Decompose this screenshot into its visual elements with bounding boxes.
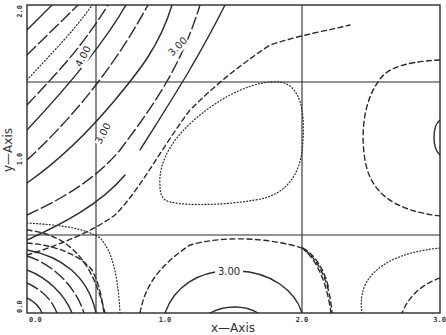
contour-line xyxy=(160,82,304,205)
x-tick-label: 2.0 xyxy=(296,316,309,324)
contour-label-text: 3.00 xyxy=(218,266,240,277)
contour-line xyxy=(27,298,42,313)
y-axis-label: y—Axis xyxy=(1,128,15,172)
x-tick-label: 3.0 xyxy=(433,316,446,324)
contour-line xyxy=(27,283,57,313)
contour-line xyxy=(434,120,440,155)
y-tick-label: 1.0 xyxy=(16,153,24,166)
contour-label-3-bottom: 3.00 xyxy=(215,266,243,278)
contour-line xyxy=(27,5,126,130)
contour-line xyxy=(238,271,302,313)
x-tick-label: 1.0 xyxy=(159,316,172,324)
contour-line xyxy=(361,248,440,313)
contour-line xyxy=(27,5,78,55)
contour-line xyxy=(363,60,440,216)
x-tick-label: 0.0 xyxy=(29,316,42,324)
contour-line xyxy=(27,5,172,183)
y-tick-label: 0.0 xyxy=(16,300,24,313)
contour-chart: 4.00 3.00 3.00 3.00 0.0 1.0 2.0 3.0 0.0 … xyxy=(0,0,446,335)
contour-line xyxy=(27,223,120,313)
contour-line xyxy=(27,5,200,215)
contour-line xyxy=(210,307,258,313)
contour-label-3-upper: 3.00 xyxy=(165,34,190,59)
contour-line xyxy=(27,5,52,30)
contour-line xyxy=(302,248,331,313)
contour-line xyxy=(402,278,440,313)
y-tick-label: 2.0 xyxy=(16,5,24,18)
contour-line xyxy=(27,270,72,313)
x-axis-label: x—Axis xyxy=(211,321,255,335)
